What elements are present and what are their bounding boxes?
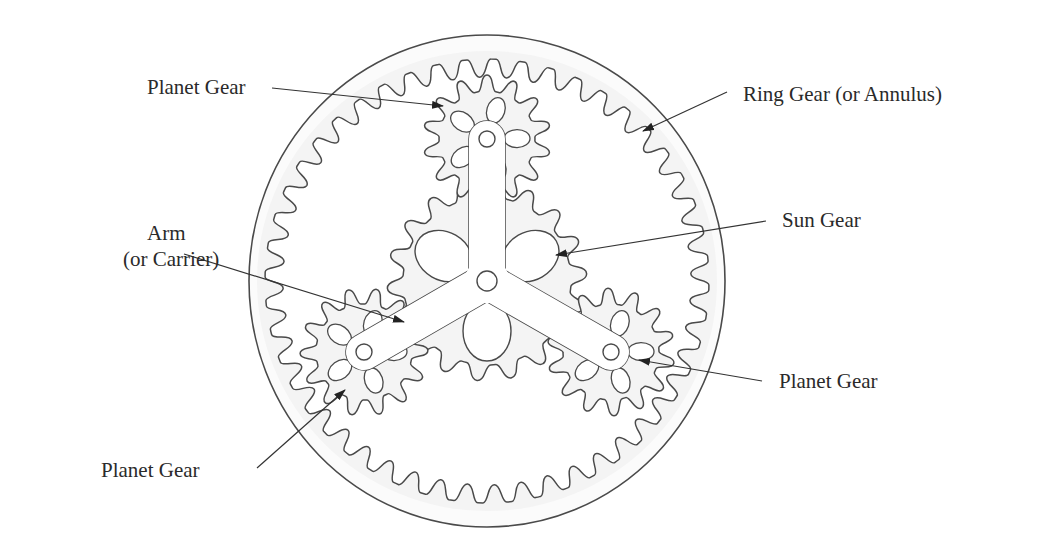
label-planet-gear-bottom: Planet Gear — [101, 458, 200, 483]
arm-pin-hole — [479, 131, 495, 147]
label-arm-line1: Arm — [147, 221, 186, 246]
label-ring-gear: Ring Gear (or Annulus) — [743, 82, 942, 107]
label-planet-gear-right: Planet Gear — [779, 369, 878, 394]
label-sun-gear: Sun Gear — [782, 208, 861, 233]
arm-center-hole — [477, 271, 497, 291]
arm-pin-hole — [603, 344, 619, 360]
label-arm-line2: (or Carrier) — [123, 247, 219, 272]
arm-pin-hole — [356, 344, 372, 360]
label-planet-gear-top: Planet Gear — [147, 75, 246, 100]
